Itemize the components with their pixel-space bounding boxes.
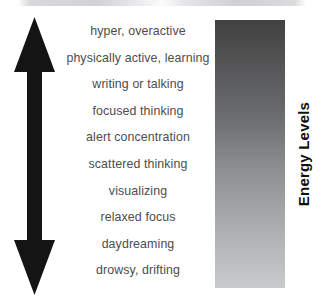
list-item: relaxed focus <box>62 204 214 231</box>
list-item: alert concentration <box>62 124 214 151</box>
energy-gradient-bar <box>215 20 285 288</box>
list-item: focused thinking <box>62 98 214 125</box>
energy-levels-caption-area: Energy Levels <box>286 20 320 288</box>
list-item: scattered thinking <box>62 151 214 178</box>
energy-levels-figure: hyper, overactive physically active, lea… <box>0 0 323 302</box>
list-item: physically active, learning <box>62 45 214 72</box>
list-item: writing or talking <box>62 71 214 98</box>
list-item: drowsy, drifting <box>62 257 214 284</box>
energy-levels-label: Energy Levels <box>295 102 312 206</box>
list-item: daydreaming <box>62 231 214 258</box>
state-label-list: hyper, overactive physically active, lea… <box>62 18 214 284</box>
arrow-shape-icon <box>14 17 55 295</box>
scan-artifact-strip <box>18 0 306 6</box>
list-item: hyper, overactive <box>62 18 214 45</box>
list-item: visualizing <box>62 178 214 205</box>
double-headed-arrow <box>8 12 62 300</box>
